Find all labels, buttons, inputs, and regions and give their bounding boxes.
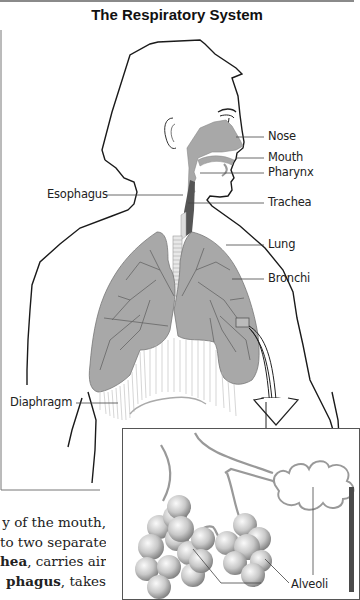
label-diaphragm: Diaphragm	[10, 395, 72, 409]
left-torso-line	[88, 392, 96, 483]
body-line-3: hea, carries air	[0, 552, 106, 572]
page-edge-bar	[349, 487, 354, 592]
label-lung: Lung	[268, 237, 295, 251]
alveoli-cluster-right	[215, 513, 272, 587]
detail-highlight-box	[236, 318, 249, 327]
ear	[165, 118, 176, 149]
right-lung	[174, 232, 259, 384]
label-mouth: Mouth	[268, 150, 303, 164]
body-line-1: y of the mouth,	[0, 513, 106, 533]
label-bronchi: Bronchi	[268, 271, 310, 285]
alveolus-magnified	[274, 461, 353, 510]
label-trachea: Trachea	[268, 195, 311, 209]
body-line-4: phagus, takes	[0, 572, 106, 592]
alveoli-cluster-left	[135, 495, 215, 599]
mouth-cavity	[198, 156, 234, 166]
label-alveoli: Alveoli	[291, 577, 328, 591]
figure-frame	[1, 30, 100, 490]
label-nose: Nose	[268, 129, 296, 143]
label-pharynx: Pharynx	[268, 165, 314, 179]
label-esophagus: Esophagus	[47, 187, 108, 201]
body-line-2: to two separate	[0, 533, 106, 553]
term-trachea: hea	[0, 553, 27, 569]
term-esophagus: phagus	[6, 573, 61, 589]
alveoli-inset: Alveoli	[122, 428, 360, 600]
body-text: y of the mouth, to two separate hea, car…	[0, 513, 106, 591]
